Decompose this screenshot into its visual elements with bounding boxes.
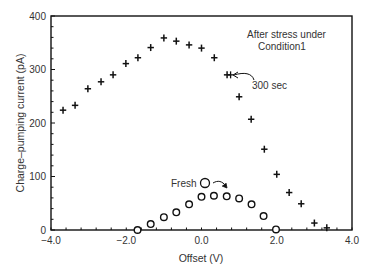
series-300-sec xyxy=(60,34,330,231)
plus-marker-icon xyxy=(110,71,116,78)
circle-marker-icon xyxy=(173,209,180,216)
y-tick-labels: 0100200300400 xyxy=(29,11,46,236)
circle-marker-icon xyxy=(248,201,255,208)
plus-marker-icon xyxy=(135,54,141,61)
y-axis-title: Charge–pumping current (pA) xyxy=(14,54,26,193)
circle-marker-icon xyxy=(161,214,168,221)
plus-marker-icon xyxy=(173,38,179,45)
plus-marker-icon xyxy=(298,200,304,207)
circle-marker-icon xyxy=(236,195,243,202)
circle-marker-icon xyxy=(198,194,205,201)
y-tick-label: 200 xyxy=(29,118,46,129)
annotation-condition-line1: After stress under xyxy=(247,29,327,40)
plus-marker-icon xyxy=(248,116,254,123)
plus-marker-icon xyxy=(85,85,91,92)
fresh-legend-marker xyxy=(201,179,210,188)
plus-marker-icon xyxy=(274,171,280,178)
x-tick-labels: −4.0−2.00.02.04.0 xyxy=(41,235,359,246)
plus-marker-icon xyxy=(123,60,129,67)
plus-marker-icon xyxy=(72,102,78,109)
x-tick-label: 4.0 xyxy=(345,235,359,246)
series-fresh xyxy=(134,192,279,233)
circle-marker-icon xyxy=(260,213,267,220)
plus-marker-icon xyxy=(311,220,317,227)
y-tick-label: 100 xyxy=(29,171,46,182)
chart-canvas: 0100200300400 −4.0−2.00.02.04.0 Offset (… xyxy=(0,0,373,273)
y-tick-label: 300 xyxy=(29,64,46,75)
annotation-300-sec: 300 sec xyxy=(252,80,287,91)
x-tick-label: 2.0 xyxy=(270,235,284,246)
y-tick-label: 400 xyxy=(29,11,46,22)
y-tick-label: 0 xyxy=(40,225,46,236)
x-tick-label: 0.0 xyxy=(195,235,209,246)
plus-marker-icon xyxy=(211,54,217,61)
curved-arrow-icon xyxy=(234,73,254,80)
circle-marker-icon xyxy=(211,192,218,199)
plus-marker-icon xyxy=(161,34,167,41)
circle-marker-icon xyxy=(273,226,280,233)
plus-marker-icon xyxy=(261,146,267,153)
circle-marker-icon xyxy=(147,221,154,228)
annotation-condition-line2: Condition1 xyxy=(258,41,306,52)
circle-marker-icon xyxy=(223,193,230,200)
plus-marker-icon xyxy=(236,93,242,100)
circle-marker-icon xyxy=(186,201,193,208)
annotation-fresh: Fresh xyxy=(171,178,197,189)
plus-marker-icon xyxy=(98,78,104,85)
plus-marker-icon xyxy=(286,189,292,196)
plus-marker-icon xyxy=(198,45,204,52)
x-tick-label: −2.0 xyxy=(116,235,136,246)
plus-marker-icon xyxy=(148,44,154,51)
x-axis-title: Offset (V) xyxy=(179,252,224,264)
plus-marker-icon xyxy=(60,107,66,114)
x-tick-label: −4.0 xyxy=(41,235,61,246)
circle-marker-icon xyxy=(134,227,141,234)
plus-marker-icon xyxy=(186,41,192,48)
